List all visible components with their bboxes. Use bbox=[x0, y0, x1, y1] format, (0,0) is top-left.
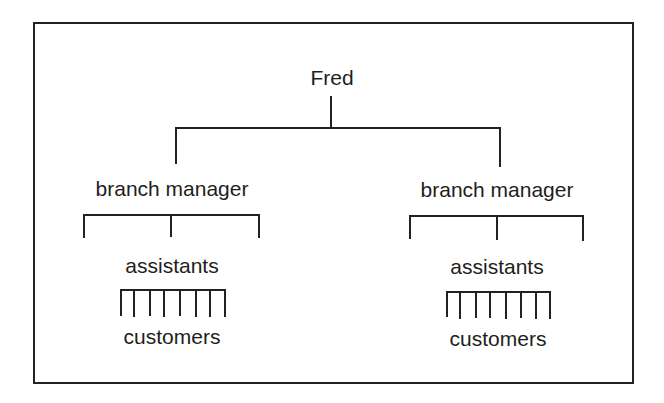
root-node-label: Fred bbox=[310, 66, 353, 90]
customers-label-left: customers bbox=[124, 325, 221, 349]
assistants-label-left: assistants bbox=[125, 254, 218, 278]
branch-manager-label-left: branch manager bbox=[96, 177, 249, 201]
branch-manager-label-right: branch manager bbox=[421, 178, 574, 202]
customers-label-right: customers bbox=[450, 327, 547, 351]
assistants-label-right: assistants bbox=[450, 255, 543, 279]
